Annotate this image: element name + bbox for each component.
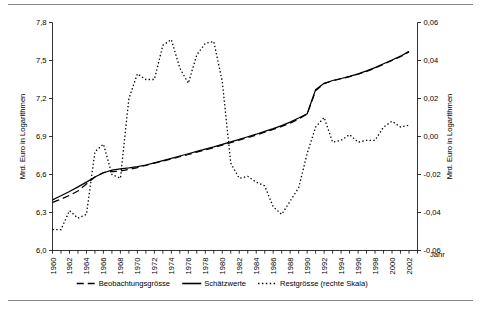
x-axis-tick-label: 1970 [133, 258, 142, 275]
legend-item-restgroesse: Restgrösse (rechte Skala) [258, 279, 368, 288]
x-axis-tick-label: 1986 [269, 258, 278, 275]
y-axis-right-tick-label: 0,00 [424, 132, 439, 141]
y-axis-left-tick-label: 7,5 [36, 56, 47, 65]
y-axis-right-tick-label: 0,02 [424, 94, 439, 103]
x-axis-tick-label: 1998 [371, 258, 380, 275]
x-axis-tick-label: 1988 [286, 258, 295, 275]
y-axis-left-tick-label: 6,6 [36, 170, 47, 179]
y-axis-right-tick-label: -0,02 [424, 170, 441, 179]
y-axis-left-tick-label: 7,8 [36, 18, 47, 27]
x-axis-tick-label: 1992 [320, 258, 329, 275]
x-axis-tick-label: 1982 [235, 258, 244, 275]
x-axis-tick-label: 1974 [167, 258, 176, 275]
x-axis-tick-label: 1964 [82, 258, 91, 275]
chart-figure: 6,06,36,66,97,27,57,8-0,06-0,04-0,020,00… [0, 0, 481, 310]
x-axis-tick-label: 1966 [99, 258, 108, 275]
x-axis-tick-label: 1972 [150, 258, 159, 275]
x-axis-title: Jahr [430, 250, 445, 259]
x-axis-tick-label: 1960 [49, 258, 58, 275]
legend-item-schaetzwerte: Schätzwerte [182, 279, 246, 288]
series-line-restgroesse [53, 40, 410, 230]
x-axis-tick-label: 1978 [201, 258, 210, 275]
y-axis-left-title: Mrd. Euro in Logarithmen [18, 94, 27, 180]
y-axis-left-tick-label: 6,3 [36, 208, 47, 217]
x-axis-tick-label: 2000 [388, 258, 397, 275]
x-axis-tick-label: 1994 [337, 258, 346, 275]
x-axis-tick-label: 1968 [116, 258, 125, 275]
x-axis-tick-label: 1996 [354, 258, 363, 275]
y-axis-left-tick-label: 6,0 [36, 246, 47, 255]
plot-area: 6,06,36,66,97,27,57,8-0,06-0,04-0,020,00… [18, 18, 454, 288]
x-axis-tick-label: 1976 [184, 258, 193, 275]
y-axis-left-tick-label: 6,9 [36, 132, 47, 141]
x-axis-tick-label: 2002 [405, 258, 414, 275]
y-axis-right-tick-label: 0,04 [424, 56, 439, 65]
y-axis-right-title: Mrd. Euro in Logarithmen [445, 94, 454, 180]
legend-item-beobachtungsgroesse: Beobachtungsgrösse [77, 279, 170, 288]
x-axis-tick-label: 1980 [218, 258, 227, 275]
y-axis-left-tick-label: 7,2 [36, 94, 47, 103]
legend-label: Schätzwerte [204, 279, 246, 288]
x-axis-tick-label: 1984 [252, 258, 261, 275]
y-axis-right-tick-label: 0,06 [424, 18, 439, 27]
series-line-schaetzwerte [53, 51, 410, 199]
legend-label: Restgrösse (rechte Skala) [280, 279, 368, 288]
x-axis-tick-label: 1962 [65, 258, 74, 275]
y-axis-right-tick-label: -0,04 [424, 208, 441, 217]
x-axis-tick-label: 1990 [303, 258, 312, 275]
legend-label: Beobachtungsgrösse [99, 279, 170, 288]
chart-canvas: 6,06,36,66,97,27,57,8-0,06-0,04-0,020,00… [0, 0, 481, 310]
